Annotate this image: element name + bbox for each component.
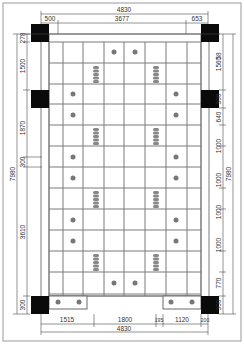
grille-icon [93, 66, 99, 83]
dim-right-4: 1000 [215, 172, 222, 187]
dim-left-3: 3610 [19, 224, 26, 239]
grille-icon [93, 128, 99, 145]
downlight-icon [71, 176, 76, 181]
downlight-icon [71, 92, 76, 97]
downlight-icon [190, 300, 195, 305]
downlight-icon [133, 50, 138, 55]
dim-bottom-1: 1515 [60, 316, 75, 323]
dim-bottom-4: 1120 [175, 316, 189, 323]
grille-icon [93, 191, 99, 208]
dim-top-right: 653 [192, 15, 203, 22]
downlight-icon [71, 113, 76, 118]
downlight-icon [174, 239, 179, 244]
dim-right-2: 640 [215, 111, 222, 122]
column-top-left [31, 24, 49, 42]
dim-right-small: 300 [215, 93, 222, 104]
dim-bottom-3: 195 [155, 317, 164, 323]
dim-left-bottom: 300 [19, 299, 26, 310]
dim-top-left: 500 [45, 15, 56, 22]
dim-bottom-5: 200 [201, 317, 210, 323]
downlight-icon [174, 218, 179, 223]
downlight-icon [77, 300, 82, 305]
dim-left-2: 1870 [19, 120, 26, 135]
column-top-right [201, 24, 219, 42]
dim-right-3: 1000 [215, 138, 222, 153]
column-mid-left [31, 90, 49, 108]
downlight-icon [169, 300, 174, 305]
column-bottom-left [31, 296, 49, 314]
grille-icon [93, 254, 99, 271]
downlight-icon [71, 218, 76, 223]
dim-bottom-overall: 4830 [117, 325, 132, 332]
downlight-icon [174, 155, 179, 160]
downlight-icon [112, 50, 117, 55]
dim-right-overall: 7980 [225, 166, 232, 181]
dim-left-1: 1500 [19, 58, 26, 73]
downlight-icon [174, 113, 179, 118]
dim-left-top-small: 278 [19, 32, 26, 43]
dim-right-5: 1000 [215, 204, 222, 219]
grille-icon [153, 191, 159, 208]
downlight-icon [133, 281, 138, 286]
downlight-icon [174, 176, 179, 181]
downlight-icon [174, 92, 179, 97]
dim-left-overall: 7980 [9, 166, 16, 181]
downlight-icon [71, 239, 76, 244]
dim-right-8: 770 [215, 277, 222, 288]
grille-icon [153, 128, 159, 145]
grille-icon [153, 254, 159, 271]
dim-right-bottom: 300 [215, 299, 222, 310]
grille-icon [153, 66, 159, 83]
dim-top-middle: 3677 [115, 15, 130, 22]
dim-left-small: 300 [19, 156, 26, 167]
downlight-icon [71, 155, 76, 160]
downlight-icon [112, 281, 117, 286]
sheet-frame [3, 3, 241, 341]
floor-plan-drawing: 4830 500 3677 653 278 1500 1870 300 7980… [0, 0, 244, 344]
dim-right-1: 1560 [215, 56, 222, 71]
downlight-icon [56, 300, 61, 305]
dim-bottom-2: 1800 [118, 316, 133, 323]
dim-top-overall: 4830 [117, 6, 132, 13]
dim-right-6: 1000 [215, 237, 222, 252]
